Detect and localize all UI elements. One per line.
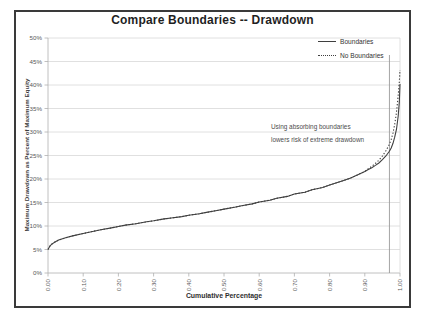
y-tick-label: 25%	[30, 152, 43, 159]
y-tick-label: 0%	[33, 269, 42, 276]
x-tick-label: 0.00	[44, 278, 51, 291]
annotation: Using absorbing boundaries lowers risk o…	[271, 120, 364, 146]
x-axis-title: Cumulative Percentage	[48, 292, 400, 299]
y-tick-label: 50%	[30, 34, 43, 41]
y-tick-label: 20%	[30, 175, 43, 182]
y-tick-label: 10%	[30, 222, 43, 229]
y-tick-label: 45%	[30, 58, 43, 65]
legend-item-boundaries: Boundaries	[318, 36, 384, 47]
series-line-boundaries	[48, 84, 400, 249]
y-tick-label: 15%	[30, 199, 43, 206]
page: { "chart": { "title": "Compare Boundarie…	[0, 0, 425, 326]
dotted-line-icon	[318, 55, 336, 56]
annotation-line-2: lowers risk of extreme drawdown	[271, 133, 364, 146]
x-tick-label: 0.30	[150, 278, 157, 291]
x-tick-label: 0.60	[256, 278, 263, 291]
legend-label: Boundaries	[340, 38, 373, 45]
solid-line-icon	[318, 41, 336, 42]
x-tick-label: 0.40	[185, 278, 192, 291]
x-tick-label: 0.50	[220, 278, 227, 291]
x-tick-label: 0.20	[115, 278, 122, 291]
legend-item-no-boundaries: No Boundaries	[318, 50, 384, 61]
annotation-line-1: Using absorbing boundaries	[271, 120, 364, 133]
x-tick-label: 0.90	[361, 278, 368, 291]
y-tick-label: 35%	[30, 105, 43, 112]
legend-label: No Boundaries	[340, 52, 384, 59]
y-tick-label: 30%	[30, 128, 43, 135]
x-tick-label: 1.00	[396, 278, 403, 291]
y-tick-label: 5%	[33, 246, 42, 253]
legend: Boundaries No Boundaries	[318, 36, 384, 61]
x-tick-label: 0.70	[291, 278, 298, 291]
chart-title: Compare Boundaries -- Drawdown	[16, 13, 409, 27]
series-line-no-boundaries	[48, 70, 400, 250]
x-tick-label: 0.80	[326, 278, 333, 291]
y-tick-label: 40%	[30, 81, 43, 88]
x-tick-label: 0.10	[80, 278, 87, 291]
y-axis-title: Maximum Drawdown as Percent of Maximum E…	[23, 78, 30, 231]
